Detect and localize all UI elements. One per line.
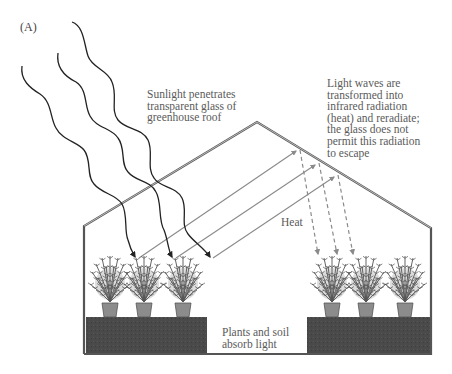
- foliage: [122, 256, 166, 302]
- pot: [175, 303, 191, 317]
- potted-plant: [310, 256, 354, 317]
- infrared-caption: Light waves are transformed into infrare…: [327, 78, 420, 159]
- potted-plant: [383, 256, 427, 317]
- foliage: [344, 256, 388, 302]
- pot: [397, 303, 413, 317]
- plants-layer: [88, 256, 427, 317]
- pot: [358, 303, 374, 317]
- foliage: [161, 256, 205, 302]
- potted-plant: [88, 256, 132, 317]
- foliage: [310, 256, 354, 302]
- pot: [102, 303, 118, 317]
- diagram-graphics: [0, 0, 452, 374]
- pot: [136, 303, 152, 317]
- heat-label: Heat: [281, 217, 303, 229]
- panel-label: (A): [20, 22, 37, 34]
- foliage: [383, 256, 427, 302]
- soil-bed-left: [86, 317, 207, 353]
- pot: [324, 303, 340, 317]
- absorb-caption: Plants and soil absorb light: [222, 327, 289, 350]
- potted-plant: [161, 256, 205, 317]
- sunlight-waves: [22, 22, 210, 257]
- potted-plant: [122, 256, 166, 317]
- sunlight-caption: Sunlight penetrates transparent glass of…: [147, 89, 236, 124]
- soil-bed-right: [307, 317, 430, 353]
- greenhouse-effect-diagram: (A) Sunlight penetrates transparent glas…: [0, 0, 452, 374]
- potted-plant: [344, 256, 388, 317]
- foliage: [88, 256, 132, 302]
- reflected-light-rays: [139, 151, 334, 258]
